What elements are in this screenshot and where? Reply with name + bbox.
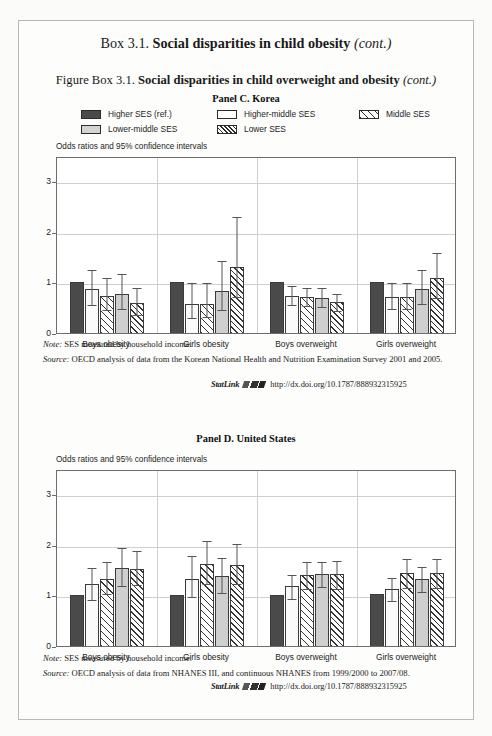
confidence-interval (200, 283, 215, 318)
ci-whisker-line (137, 288, 138, 316)
chart-legend: Higher SES (ref.) Higher-middle SES Midd… (19, 109, 475, 139)
confidence-interval (385, 283, 400, 309)
panel-d-source-label: Source: (43, 668, 69, 678)
ci-whisker-line (422, 567, 423, 593)
panel-c-statlink-url[interactable]: http://dx.doi.org/10.1787/888932315925 (270, 380, 406, 389)
ci-cap-bottom (433, 588, 442, 589)
confidence-interval (330, 561, 345, 590)
panel-c-note-text: SES measured by household income. (64, 339, 192, 349)
ci-whisker-line (107, 278, 108, 311)
ci-whisker-line (222, 558, 223, 594)
ci-cap-bottom (118, 586, 127, 587)
ci-cap-top (333, 561, 342, 562)
ci-whisker-line (191, 283, 192, 318)
figure-title-text: Social disparities in child overweight a… (138, 73, 400, 87)
panel-d-statlink[interactable]: StatLink http://dx.doi.org/10.1787/88893… (211, 682, 407, 691)
gridline (57, 496, 455, 497)
bar (170, 595, 185, 646)
legend-label-middle-ses: Middle SES (386, 109, 430, 119)
ci-whisker-line (137, 551, 138, 586)
ci-cap-top (103, 278, 112, 279)
panel-d-statlink-url[interactable]: http://dx.doi.org/10.1787/888932315925 (270, 682, 406, 691)
ci-cap-top (303, 562, 312, 563)
ci-cap-bottom (318, 587, 327, 588)
panel-c-plot (56, 157, 456, 334)
legend-item-higher-ses: Higher SES (ref.) (81, 109, 172, 119)
panel-c-source-text: OECD analysis of data from the Korean Na… (72, 354, 443, 364)
y-axis-tick-mark (52, 647, 56, 648)
ci-whisker-line (407, 283, 408, 309)
panel-d-statlink-label: StatLink (211, 682, 239, 691)
y-axis-tick-label: 2 (35, 540, 51, 550)
group-separator (157, 471, 158, 646)
gridline (57, 183, 455, 184)
ci-cap-bottom (418, 592, 427, 593)
y-axis-tick-mark (52, 546, 56, 547)
ci-cap-top (287, 286, 296, 287)
ci-cap-top (187, 283, 196, 284)
confidence-interval (85, 270, 100, 305)
ci-cap-top (387, 578, 396, 579)
legend-swatch-middle-ses (359, 110, 379, 119)
ci-cap-top (87, 270, 96, 271)
panel-d-title: Panel D. United States (19, 433, 473, 444)
y-axis-tick-label: 1 (35, 590, 51, 600)
panel-c-note: Note: SES measured by household income. (43, 339, 463, 350)
panel-c-statlink-label: StatLink (211, 380, 239, 389)
ci-cap-top (318, 288, 327, 289)
ci-cap-top (118, 548, 127, 549)
ci-cap-top (433, 559, 442, 560)
panel-c-axis-caption: Odds ratios and 95% confidence intervals (56, 142, 207, 151)
ci-cap-top (218, 261, 227, 262)
confidence-interval (430, 253, 445, 299)
panel-c-statlink[interactable]: StatLink http://dx.doi.org/10.1787/88893… (211, 380, 407, 389)
confidence-interval (285, 286, 300, 306)
confidence-interval (400, 559, 415, 589)
ci-whisker-line (237, 217, 238, 298)
ci-cap-top (418, 270, 427, 271)
ci-cap-top (287, 575, 296, 576)
ci-cap-top (303, 288, 312, 289)
ci-whisker-line (122, 274, 123, 309)
ci-cap-bottom (103, 594, 112, 595)
ci-cap-top (233, 217, 242, 218)
bar (370, 282, 385, 333)
panel-c-note-label: Note: (43, 339, 62, 349)
figure-title: Figure Box 3.1. Social disparities in ch… (19, 73, 473, 88)
ci-cap-bottom (218, 593, 227, 594)
group-separator (357, 471, 358, 646)
y-axis-tick-mark (52, 182, 56, 183)
gridline (57, 234, 455, 235)
ci-cap-top (103, 562, 112, 563)
confidence-interval (330, 294, 345, 312)
legend-label-higher-ses: Higher SES (ref.) (108, 109, 172, 119)
panel-d-source-text: OECD analysis of data from NHANES III, a… (72, 668, 410, 678)
box-label: Box 3.1. (101, 35, 149, 51)
ci-cap-bottom (433, 298, 442, 299)
confidence-interval (185, 556, 200, 598)
panel-d-plot (56, 470, 456, 647)
y-axis-tick-label: 3 (35, 489, 51, 499)
ci-cap-top (403, 283, 412, 284)
ci-whisker-line (207, 541, 208, 585)
ci-whisker-line (291, 575, 292, 600)
confidence-interval (215, 558, 230, 594)
ci-cap-top (433, 253, 442, 254)
panel-c-title: Panel C. Korea (19, 93, 473, 104)
confidence-interval (130, 551, 145, 586)
confidence-interval (300, 562, 315, 590)
ci-whisker-line (391, 578, 392, 602)
ci-whisker-line (437, 253, 438, 299)
y-axis-tick-label: 3 (35, 176, 51, 186)
y-axis-tick-label: 2 (35, 227, 51, 237)
y-axis-tick-mark (52, 334, 56, 335)
ci-whisker-line (191, 556, 192, 598)
ci-cap-top (403, 559, 412, 560)
ci-whisker-line (422, 270, 423, 304)
confidence-interval (130, 288, 145, 316)
page-root: Box 3.1. Social disparities in child obe… (0, 0, 492, 736)
ci-whisker-line (322, 288, 323, 308)
ci-cap-bottom (203, 584, 212, 585)
y-axis-tick-label: 0 (35, 641, 51, 651)
legend-swatch-lower-ses (217, 125, 237, 134)
